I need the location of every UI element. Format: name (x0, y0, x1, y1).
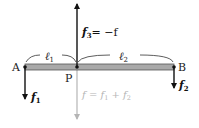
point-p-dot (75, 65, 79, 69)
force-f3-label: f3= −f (81, 26, 119, 40)
length-l1-label: ℓ1 (45, 50, 54, 64)
point-a-dot (23, 65, 27, 69)
force-f2-label: f2 (178, 79, 189, 93)
length-l2-label: ℓ2 (119, 50, 128, 64)
point-p-label: P (65, 72, 73, 85)
force-f1-label: f1 (30, 91, 41, 105)
lever-diagram: A B P ℓ1 ℓ2 f3= −f f1 f2 f = f1 + f2 (0, 0, 199, 128)
resultant-force-label: f = f1 + f2 (81, 89, 131, 102)
point-a-label: A (11, 61, 21, 74)
lever-bar (25, 64, 174, 70)
point-b-label: B (178, 61, 186, 74)
point-b-dot (172, 65, 176, 69)
